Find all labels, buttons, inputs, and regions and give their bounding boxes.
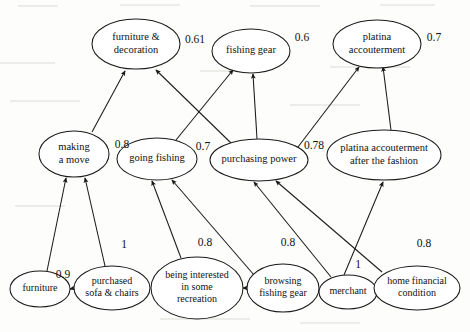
graph-node-making_a_move[interactable]: makinga move xyxy=(39,131,109,177)
edge-weight-label: 0.78 xyxy=(304,139,324,151)
edge-weight-label: 0.8 xyxy=(115,138,130,150)
edge-weight-label: 0.61 xyxy=(185,33,205,45)
node-label-line: being interested xyxy=(165,269,229,280)
node-layer: furniture &decorationfishing gearplatina… xyxy=(10,19,460,319)
node-label-line: going fishing xyxy=(129,152,185,163)
graph-edge xyxy=(92,71,125,132)
graph-node-platina_accouterment[interactable]: platinaaccouterment xyxy=(333,20,421,68)
graph-edge xyxy=(254,182,331,277)
node-label-line: browsing xyxy=(264,275,301,286)
node-label-line: condition xyxy=(398,287,436,298)
edge-weight-label: 0.7 xyxy=(196,140,211,152)
node-label-line: furniture xyxy=(23,282,59,293)
node-label-line: fishing gear xyxy=(226,44,276,55)
graph-edge xyxy=(156,70,231,143)
graph-edge xyxy=(152,181,181,258)
node-label-line: making xyxy=(58,141,90,152)
node-label-line: purchased xyxy=(92,275,133,286)
node-label-line: after the fashion xyxy=(350,155,419,166)
edge-layer xyxy=(47,67,391,289)
graph-edge xyxy=(85,178,105,266)
graph-edge xyxy=(253,74,257,139)
edge-weight-label: 1 xyxy=(355,258,361,270)
node-label-line: home financial xyxy=(387,275,447,286)
node-label-line: fishing gear xyxy=(259,287,307,298)
graph-node-furniture_decoration[interactable]: furniture &decoration xyxy=(92,19,180,69)
graph-svg: furniture &decorationfishing gearplatina… xyxy=(0,0,470,332)
node-label-line: furniture & xyxy=(112,31,160,42)
graph-edge xyxy=(344,182,383,275)
edge-weight-label: 0.6 xyxy=(295,31,310,43)
graph-node-purchasing_power[interactable]: purchasing power xyxy=(210,139,308,181)
diagram-canvas: furniture &decorationfishing gearplatina… xyxy=(0,0,470,332)
node-label-line: merchant xyxy=(329,285,366,296)
node-label-line: purchasing power xyxy=(222,153,297,164)
graph-node-merchant[interactable]: merchant xyxy=(319,275,377,309)
node-label-line: platina accouterment xyxy=(340,142,428,153)
edge-weight-label: 0.8 xyxy=(198,236,213,248)
edge-weight-label: 0.9 xyxy=(56,268,71,280)
graph-node-browsing_fishing_gear[interactable]: browsingfishing gear xyxy=(247,264,319,312)
graph-edge xyxy=(176,70,233,140)
edge-weight-label: 0.7 xyxy=(427,31,442,43)
edge-weight-label: 1 xyxy=(121,238,127,250)
graph-edge xyxy=(47,178,66,271)
edge-weight-label: 0.8 xyxy=(417,237,432,249)
edge-weight-label: 0.8 xyxy=(281,236,296,248)
graph-node-purchased_sofa_chairs[interactable]: purchasedsofa & chairs xyxy=(74,266,150,310)
graph-node-being_interested[interactable]: being interestedin somerecreation xyxy=(151,257,243,319)
node-label-line: sofa & chairs xyxy=(85,287,138,298)
graph-node-home_financial_condition[interactable]: home financialcondition xyxy=(374,266,460,310)
graph-edge xyxy=(383,67,391,130)
node-label-line: in some xyxy=(181,281,213,292)
node-label-line: decoration xyxy=(114,44,159,55)
graph-edge xyxy=(276,181,382,272)
node-label-line: a move xyxy=(59,154,90,165)
graph-node-fishing_gear[interactable]: fishing gear xyxy=(212,29,290,73)
graph-edge xyxy=(70,288,74,289)
node-label-line: accouterment xyxy=(349,44,406,55)
node-label-line: platina xyxy=(363,31,392,42)
graph-node-platina_after_fashion[interactable]: platina accoutermentafter the fashion xyxy=(327,130,441,180)
node-label-line: recreation xyxy=(177,293,217,304)
